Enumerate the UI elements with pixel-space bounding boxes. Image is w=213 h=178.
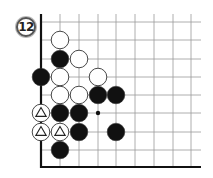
black-stone [107,123,125,141]
white-stone [70,50,88,68]
black-stone [51,104,69,122]
go-diagram: 12 [0,0,213,178]
black-stone [107,86,125,104]
black-stone [32,68,50,86]
black-stone [89,86,107,104]
small-dot-marker [96,111,100,115]
black-stone [51,50,69,68]
white-stone [32,123,50,141]
board-points [96,111,100,115]
white-stone [51,86,69,104]
black-stone [70,104,88,122]
white-stone [51,68,69,86]
white-stone [70,86,88,104]
black-stone [70,123,88,141]
white-stone [51,123,69,141]
white-stone [51,31,69,49]
go-board [0,0,213,178]
black-stone [51,141,69,159]
white-stone [32,104,50,122]
white-stone [89,68,107,86]
